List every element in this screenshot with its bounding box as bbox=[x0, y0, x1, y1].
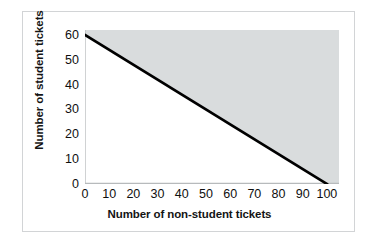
y-tick-label: 60 bbox=[53, 29, 79, 42]
y-tick-label: 10 bbox=[53, 153, 79, 166]
chart-figure-frame: Number of student tickets 0102030405060 … bbox=[22, 11, 355, 232]
y-axis-tick-labels: 0102030405060 bbox=[53, 30, 79, 184]
x-axis-tick-labels: 0102030405060708090100 bbox=[85, 188, 345, 206]
y-tick-label: 40 bbox=[53, 78, 79, 91]
y-axis-title: Number of student tickets bbox=[33, 0, 45, 160]
shaded-feasible-region bbox=[85, 30, 339, 184]
chart-plot-svg bbox=[85, 30, 339, 184]
x-tick-label: 100 bbox=[307, 188, 347, 201]
plot-area bbox=[85, 30, 339, 184]
y-tick-label: 20 bbox=[53, 128, 79, 141]
x-axis-title: Number of non-student tickets bbox=[23, 208, 356, 220]
y-tick-label: 30 bbox=[53, 103, 79, 116]
y-tick-label: 50 bbox=[53, 54, 79, 67]
